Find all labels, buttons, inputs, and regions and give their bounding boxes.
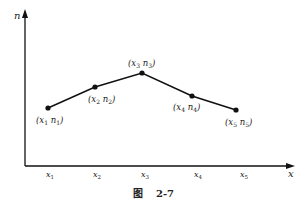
point-label-5: (x5 n5) — [225, 117, 252, 128]
x-tick-4: x4 — [194, 170, 203, 180]
x-tick-2: x2 — [93, 170, 101, 180]
y-axis-label: n — [14, 10, 20, 21]
data-points — [45, 70, 238, 112]
x-axis-label: x — [288, 168, 294, 179]
x-tick-labels: x1 x2 x3 x4 x5 — [46, 170, 249, 180]
point-label-4: (x4 n4) — [173, 102, 200, 113]
caption-number: 2-7 — [156, 188, 174, 199]
x-tick-3: x3 — [141, 170, 150, 180]
point-5 — [233, 107, 238, 112]
diagram-canvas: n x (x1 n1) (x2 n2) (x3 n3) (x4 n4) (x5 … — [0, 0, 305, 211]
point-2 — [92, 84, 97, 89]
point-3 — [139, 70, 144, 75]
point-label-3: (x3 n3) — [128, 58, 155, 69]
point-1 — [45, 105, 50, 110]
x-tick-1: x1 — [46, 170, 54, 180]
x-tick-5: x5 — [240, 170, 249, 180]
y-axis-arrow-icon — [22, 9, 28, 18]
point-4 — [189, 93, 194, 98]
caption-prefix: 图 — [133, 188, 143, 199]
axes — [22, 9, 295, 169]
point-label-2: (x2 n2) — [88, 94, 115, 105]
data-polyline — [48, 73, 236, 110]
point-label-1: (x1 n1) — [36, 115, 63, 126]
